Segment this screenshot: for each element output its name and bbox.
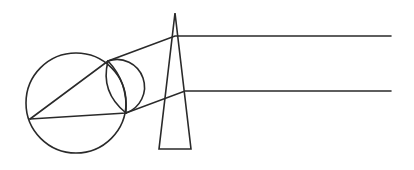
rays	[30, 36, 391, 119]
eye-prism-diagram	[0, 0, 414, 170]
prism	[159, 13, 191, 149]
lower-ray	[30, 91, 391, 119]
eye	[26, 53, 145, 153]
eyeball-circle	[26, 53, 126, 153]
upper-ray	[30, 36, 391, 119]
